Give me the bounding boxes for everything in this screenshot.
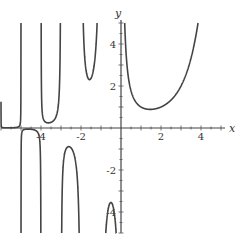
x-tick-label: -2 [76, 131, 86, 142]
gamma-branch [62, 147, 79, 233]
gamma-branch [125, 23, 199, 109]
gamma-branch [21, 129, 41, 233]
x-tick-label: 4 [198, 131, 204, 142]
gamma-branch [1, 23, 21, 128]
x-tick-label: 2 [158, 131, 164, 142]
gamma-function-chart: -4-224-4-224 x y [0, 0, 244, 243]
gamma-branch [83, 23, 97, 80]
y-tick-label: -2 [106, 165, 116, 176]
y-tick-label: 4 [110, 39, 116, 50]
y-axis-label: y [114, 7, 122, 20]
plot-area: -4-224-4-224 x y [0, 0, 244, 243]
x-axis-label: x [229, 122, 236, 135]
y-tick-label: 2 [110, 81, 116, 92]
gamma-branch [41, 23, 60, 123]
